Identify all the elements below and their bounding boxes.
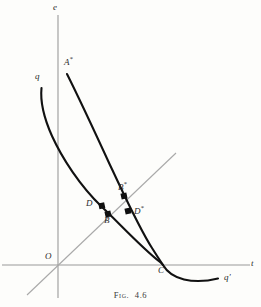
figure-caption-prefix: Fig. — [114, 290, 130, 300]
y-axis-label: e — [53, 3, 57, 12]
point-label-d-star-text: D — [134, 206, 141, 216]
marker-D-star — [124, 207, 131, 214]
point-label-c-text: C — [158, 265, 164, 275]
point-label-d-text: D — [86, 198, 93, 208]
x-axis-label: t — [251, 259, 254, 268]
curve-label-q-prime: q′ — [224, 273, 231, 282]
marker-D — [98, 202, 105, 209]
origin-label: O — [45, 252, 52, 261]
diagonal-reference-line — [27, 153, 176, 295]
point-label-b-star-asterisk: * — [124, 180, 127, 187]
point-label-d-star-asterisk: * — [141, 204, 144, 211]
figure-container: e t O q q′ A* B* D D* B C Fig. 4.6 — [0, 0, 261, 307]
point-label-b-text: B — [104, 215, 110, 225]
curve-label-q: q — [35, 72, 40, 81]
point-label-c: C — [158, 266, 164, 275]
curve-q — [41, 88, 163, 265]
figure-drawing — [0, 0, 261, 307]
figure-caption: Fig. 4.6 — [0, 290, 261, 300]
figure-caption-number: 4.6 — [135, 290, 147, 300]
point-label-b: B — [104, 216, 110, 225]
point-label-d-star: D* — [134, 205, 144, 216]
marker-B-star — [120, 192, 127, 199]
point-label-a-star: A* — [64, 56, 73, 67]
curve-q-prime — [67, 74, 218, 281]
point-label-d: D — [86, 199, 93, 208]
point-label-a-star-asterisk: * — [70, 55, 73, 62]
point-label-b-star: B* — [118, 181, 127, 192]
